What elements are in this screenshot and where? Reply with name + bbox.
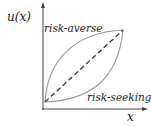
- y-axis: [41, 2, 45, 110]
- y-axis-arrow-icon: [41, 2, 45, 8]
- x-axis-arrow-icon: [142, 107, 148, 111]
- y-axis-label: u(x): [7, 11, 31, 23]
- utility-diagram: u(x) risk-averse risk-seeking x: [0, 0, 151, 126]
- risk-seeking-label: risk-seeking: [87, 92, 151, 103]
- x-axis-label: x: [127, 111, 134, 123]
- risk-averse-label: risk-averse: [44, 23, 103, 34]
